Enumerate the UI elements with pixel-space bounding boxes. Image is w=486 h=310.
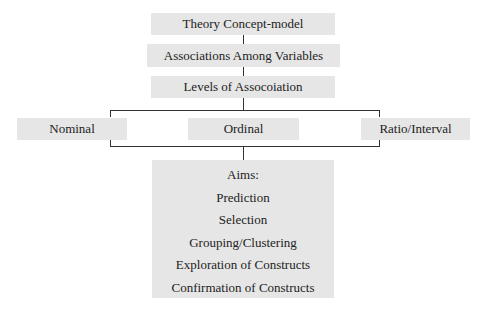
aims-title: Aims: xyxy=(227,164,259,187)
aim-item: Exploration of Constructs xyxy=(176,254,310,277)
theory-concept-model-box: Theory Concept-model xyxy=(151,13,335,35)
box-label: Associations Among Variables xyxy=(164,48,323,64)
bracket-right-tick-top xyxy=(379,110,380,117)
aims-box: Aims: Prediction Selection Grouping/Clus… xyxy=(152,160,334,298)
box-label: Ratio/Interval xyxy=(379,121,451,137)
bracket-left-tick-top xyxy=(110,110,111,117)
levels-of-association-box: Levels of Assocoiation xyxy=(151,76,335,98)
connector-line xyxy=(243,35,244,44)
bracket-top-line xyxy=(110,110,380,111)
aim-item: Prediction xyxy=(216,187,269,210)
bracket-bottom-line xyxy=(110,146,380,147)
associations-among-variables-box: Associations Among Variables xyxy=(147,44,340,67)
aim-item: Grouping/Clustering xyxy=(189,232,297,255)
aim-item: Selection xyxy=(219,209,267,232)
ratio-interval-box: Ratio/Interval xyxy=(361,118,470,140)
box-label: Ordinal xyxy=(224,121,264,137)
box-label: Theory Concept-model xyxy=(183,16,304,32)
aim-item: Confirmation of Constructs xyxy=(172,277,315,300)
connector-line xyxy=(243,146,244,160)
nominal-box: Nominal xyxy=(17,118,127,140)
connector-line xyxy=(243,67,244,76)
bracket-right-tick-bottom xyxy=(379,140,380,147)
bracket-left-tick-bottom xyxy=(110,140,111,147)
ordinal-box: Ordinal xyxy=(188,118,299,140)
connector-line xyxy=(243,98,244,110)
box-label: Nominal xyxy=(49,121,95,137)
box-label: Levels of Assocoiation xyxy=(183,79,302,95)
